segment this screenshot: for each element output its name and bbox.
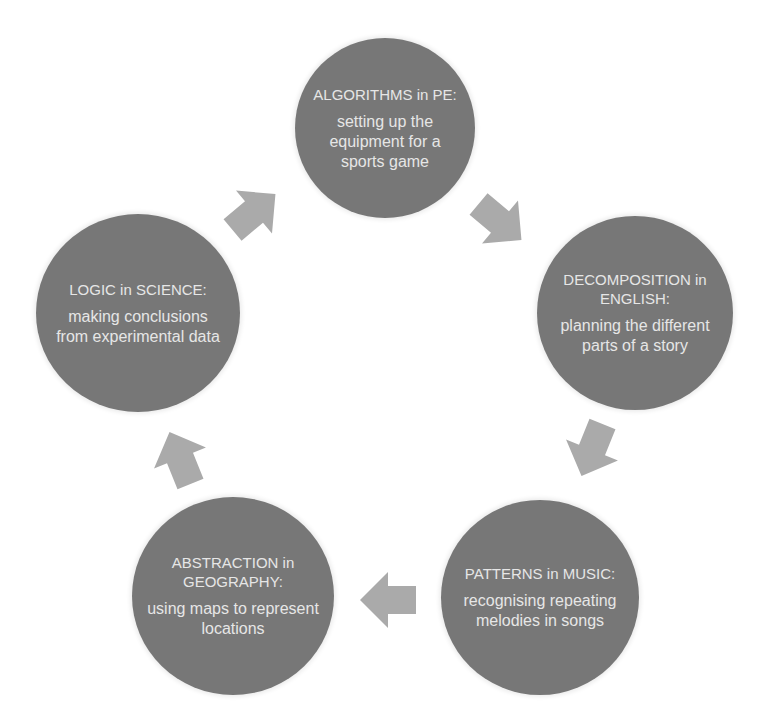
node-logic: LOGIC in SCIENCE: making conclusions fro… (36, 214, 240, 412)
arrow-down-left-icon (556, 414, 629, 487)
node-title: DECOMPOSITION in ENGLISH: (551, 270, 719, 308)
node-description: using maps to represent locations (146, 599, 320, 639)
node-title: ABSTRACTION in GEOGRAPHY: (146, 553, 320, 591)
node-title: ALGORITHMS in PE: (313, 85, 456, 104)
arrow-up-left-icon (144, 422, 217, 495)
node-algorithms: ALGORITHMS in PE: setting up the equipme… (295, 38, 475, 218)
node-description: setting up the equipment for a sports ga… (309, 112, 461, 172)
node-description: recognising repeating melodies in songs (455, 591, 625, 631)
arrow-up-right-icon (215, 173, 294, 252)
node-patterns: PATTERNS in MUSIC: recognising repeating… (441, 500, 639, 695)
node-decomposition: DECOMPOSITION in ENGLISH: planning the d… (537, 216, 733, 410)
node-description: planning the different parts of a story (551, 316, 719, 356)
cycle-diagram: ALGORITHMS in PE: setting up the equipme… (0, 0, 763, 727)
node-description: making conclusions from experimental dat… (50, 307, 226, 347)
node-title: LOGIC in SCIENCE: (69, 280, 207, 299)
node-title: PATTERNS in MUSIC: (465, 564, 615, 583)
node-abstraction: ABSTRACTION in GEOGRAPHY: using maps to … (132, 497, 334, 695)
arrow-left-icon (360, 572, 416, 628)
arrow-right-down-icon (461, 183, 540, 262)
